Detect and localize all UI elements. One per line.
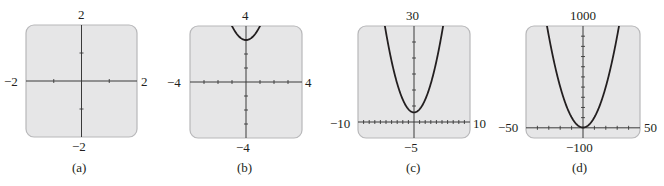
figure-stage: 2 −2 2 −2 (a) 4 −4 4 −4 (b) 30 −10 10 −5… [0, 0, 664, 186]
panel-a-xmax-label: 2 [141, 75, 148, 88]
panel-a-xmin-label: −2 [4, 75, 18, 88]
panel-d-xmax-label: 50 [644, 121, 657, 134]
panel-d-ymin-label: −100 [566, 141, 593, 154]
plots-canvas [0, 0, 664, 186]
panel-d-xmin-label: −50 [498, 121, 518, 134]
panel-a-caption: (a) [72, 161, 86, 174]
panel-a-ymin-label: −2 [72, 140, 86, 153]
panel-b-xmax-label: 4 [305, 76, 312, 89]
panel-b-ymax-label: 4 [242, 9, 249, 22]
panel-b-ymin-label: −4 [236, 141, 250, 154]
panel-d-caption: (d) [572, 161, 587, 174]
panel-c-ymin-label: −5 [404, 141, 418, 154]
panel-c-xmax-label: 10 [473, 117, 486, 130]
panel-b-xmin-label: −4 [167, 76, 181, 89]
plot-panel-0 [26, 25, 137, 137]
panel-d-ymax-label: 1000 [570, 9, 596, 22]
panel-c-caption: (c) [406, 161, 420, 174]
panel-b-caption: (b) [237, 161, 252, 174]
panel-c-ymax-label: 30 [406, 9, 419, 22]
panel-c-xmin-label: −10 [330, 117, 350, 130]
panel-a-ymax-label: 2 [78, 8, 85, 21]
